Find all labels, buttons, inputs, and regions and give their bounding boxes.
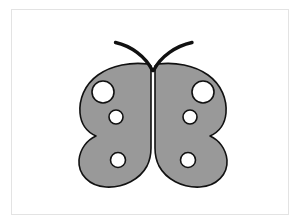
left-wing-shape: [79, 63, 151, 187]
right-wing: [155, 63, 227, 187]
butterfly-illustration: [0, 0, 304, 224]
right-lower-spot: [181, 153, 196, 168]
right-upper-small-spot: [183, 110, 197, 124]
left-upper-small-spot: [109, 110, 123, 124]
left-wing: [79, 63, 151, 187]
image-canvas: Grey butterfly with spotted wings and cu…: [0, 0, 304, 224]
right-upper-large-spot: [192, 81, 214, 103]
right-wing-shape: [155, 63, 227, 187]
left-lower-spot: [111, 153, 126, 168]
left-upper-large-spot: [92, 81, 114, 103]
